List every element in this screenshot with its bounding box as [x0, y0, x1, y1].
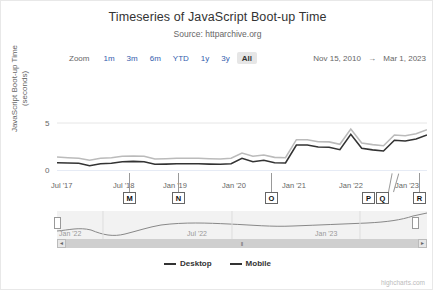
scrollbar-right-arrow-icon[interactable]: ►	[418, 239, 427, 248]
navigator-scrollbar[interactable]: ◄ ► ‖	[57, 239, 427, 248]
x-tick-jan21: Jan '21	[282, 181, 306, 190]
flag-q[interactable]: Q	[376, 192, 389, 204]
highcharts-credit[interactable]: highcharts.com	[381, 279, 425, 286]
legend-label-desktop: Desktop	[180, 259, 212, 268]
flag-o[interactable]: O	[265, 192, 278, 204]
flag-stem-o	[271, 173, 272, 192]
flag-stem-r	[419, 173, 420, 192]
x-tick-jan23: Jan '23	[395, 181, 419, 190]
legend-item-mobile[interactable]: Mobile	[230, 259, 271, 268]
chart-subtitle: Source: httparchive.org	[1, 29, 433, 39]
range-button-6m[interactable]: 6m	[145, 52, 166, 64]
range-button-ytd[interactable]: YTD	[168, 52, 194, 64]
range-button-1m[interactable]: 1m	[98, 52, 119, 64]
navigator-tick-jul22: Jul '22	[187, 230, 207, 237]
scrollbar-grip-icon: ‖	[239, 242, 246, 246]
range-button-all[interactable]: All	[237, 52, 257, 64]
plot-area	[57, 71, 427, 171]
legend-label-mobile: Mobile	[246, 259, 271, 268]
legend: Desktop Mobile	[1, 259, 433, 268]
flag-stem-n	[178, 173, 179, 192]
flag-m[interactable]: M	[123, 192, 136, 204]
range-button-3m[interactable]: 3m	[122, 52, 143, 64]
flag-stem-m	[129, 173, 130, 192]
flag-stem-p	[388, 173, 393, 192]
x-tick-jul18: Jul '18	[113, 181, 134, 190]
flag-r[interactable]: R	[413, 192, 426, 204]
series-line-mobile[interactable]	[57, 129, 427, 160]
flag-p[interactable]: P	[362, 192, 375, 204]
series-line-desktop[interactable]	[57, 134, 427, 165]
range-selector: Zoom 1m 3m 6m YTD 1y 3y All Nov 15, 2010…	[1, 52, 433, 66]
range-date-to[interactable]: Mar 1, 2023	[383, 54, 426, 63]
legend-line-icon	[230, 263, 242, 265]
range-date-inputs: Nov 15, 2010 → Mar 1, 2023	[313, 54, 426, 63]
navigator-handle-right[interactable]	[412, 217, 419, 229]
range-date-from[interactable]: Nov 15, 2010	[313, 54, 361, 63]
range-selector-label: Zoom	[69, 54, 89, 63]
chart-title: Timeseries of JavaScript Boot-up Time	[1, 10, 433, 24]
x-tick-jan19: Jan '19	[163, 181, 187, 190]
highcharts-stock-chart: Timeseries of JavaScript Boot-up Time So…	[0, 0, 433, 290]
navigator-line	[57, 213, 427, 235]
range-date-arrow-icon: →	[368, 54, 376, 63]
y-axis-title: JavaScript Boot-up Time (seconds)	[10, 35, 29, 143]
legend-line-icon	[164, 263, 176, 265]
range-button-1y[interactable]: 1y	[196, 52, 214, 64]
x-tick-jan22: Jan '22	[339, 181, 363, 190]
x-tick-jul17: Jul '17	[51, 181, 72, 190]
navigator-handle-left[interactable]	[54, 217, 61, 229]
x-tick-jan20: Jan '20	[222, 181, 246, 190]
y-tick-5: 5	[45, 119, 49, 128]
flag-n[interactable]: N	[172, 192, 185, 204]
scrollbar-left-arrow-icon[interactable]: ◄	[57, 239, 66, 248]
navigator-tick-jan22: Jan '22	[59, 230, 81, 237]
navigator-tick-jan23: Jan '23	[315, 230, 337, 237]
range-button-3y[interactable]: 3y	[216, 52, 234, 64]
legend-item-desktop[interactable]: Desktop	[164, 259, 212, 268]
y-tick-0: 0	[45, 166, 49, 175]
series-svg	[57, 71, 427, 171]
